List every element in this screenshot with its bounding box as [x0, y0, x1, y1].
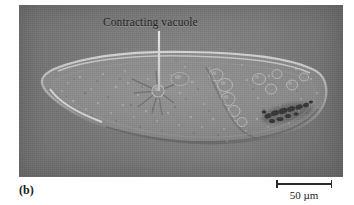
panel-letter-label: (b) [19, 183, 34, 198]
scale-bar: 50 µm [276, 180, 336, 201]
vignette-overlay [19, 5, 343, 177]
figure-panel-b: Contracting vacuole (b) 50 µm [0, 0, 354, 205]
scale-bar-right-cap [331, 180, 333, 188]
scale-bar-rule [276, 180, 336, 188]
micrograph-image: Contracting vacuole [19, 5, 343, 177]
scale-bar-line [276, 183, 332, 185]
scale-bar-label: 50 µm [276, 189, 332, 201]
